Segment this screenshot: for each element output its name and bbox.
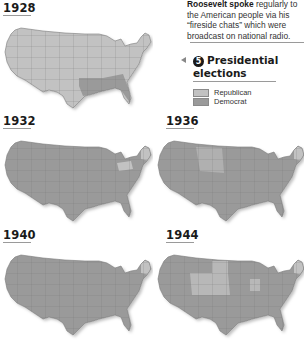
democrat-swatch: [193, 98, 209, 106]
number-badge: 5: [193, 56, 204, 67]
year-underline: [166, 242, 194, 243]
caption-divider: [190, 42, 304, 43]
map-year-1940: 1940: [3, 228, 36, 242]
legend-item-republican: Republican: [193, 88, 252, 97]
legend-divider: [193, 81, 276, 82]
map-1932: [3, 137, 153, 227]
caption-bold: Roosevelt spoke: [187, 0, 254, 9]
map-1944: [156, 251, 304, 341]
legend-title: 5Presidential elections: [193, 54, 304, 79]
pointer-arrow-icon: [181, 57, 186, 63]
map-year-1944: 1944: [166, 228, 199, 242]
map-year-1936: 1936: [166, 114, 199, 128]
map-1936: [156, 137, 304, 227]
legend-title-text: Presidential elections: [193, 54, 278, 79]
map-1928: [3, 24, 153, 114]
year-underline: [3, 242, 31, 243]
legend-label: Democrat: [214, 97, 247, 106]
map-1940: [3, 251, 153, 341]
map-year-1932: 1932: [3, 114, 36, 128]
legend-item-democrat: Democrat: [193, 97, 247, 106]
map-year-1928: 1928: [3, 1, 36, 15]
year-underline: [3, 15, 31, 16]
republican-swatch: [193, 89, 209, 97]
legend-label: Republican: [214, 88, 252, 97]
caption-text: Roosevelt spoke regularly to the America…: [187, 0, 304, 41]
year-underline: [166, 128, 194, 129]
year-underline: [3, 128, 31, 129]
